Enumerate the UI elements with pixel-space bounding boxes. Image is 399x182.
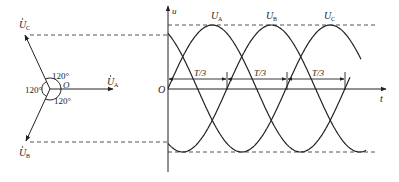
svg-text:C: C bbox=[26, 25, 30, 31]
phasor-ub-arrow bbox=[26, 89, 50, 141]
waveform-axes: u t O bbox=[158, 6, 386, 172]
svg-text:C: C bbox=[331, 16, 335, 22]
svg-text:B: B bbox=[273, 16, 277, 22]
label-ua-curve: U A bbox=[211, 10, 223, 22]
phasor-origin-label: O bbox=[63, 80, 70, 90]
label-uc-phasor: U C bbox=[19, 18, 30, 31]
phasor-diagram: 120° O 120° 120° U A U C U B bbox=[19, 18, 119, 159]
label-ua-phasor: U A bbox=[107, 75, 119, 88]
interval-3-label: T/3 bbox=[312, 68, 325, 78]
label-ub-curve: U B bbox=[266, 10, 277, 22]
svg-text:A: A bbox=[218, 16, 223, 22]
angle-label-bottom: 120° bbox=[54, 96, 72, 106]
angle-label-left: 120° bbox=[25, 85, 43, 95]
phasor-uc-arrow bbox=[25, 35, 50, 89]
waveform-origin-label: O bbox=[158, 84, 165, 95]
interval-2-label: T/3 bbox=[254, 68, 267, 78]
t-axis-label: t bbox=[380, 93, 383, 104]
three-phase-diagram: 120° O 120° 120° U A U C U B bbox=[0, 0, 399, 182]
label-ub-phasor: U B bbox=[19, 146, 30, 159]
svg-text:A: A bbox=[114, 82, 119, 88]
angle-arc-left bbox=[42, 82, 47, 97]
u-axis-label: u bbox=[172, 6, 177, 16]
interval-1-label: T/3 bbox=[194, 68, 207, 78]
label-uc-curve: U C bbox=[324, 10, 335, 22]
svg-text:B: B bbox=[26, 153, 30, 159]
